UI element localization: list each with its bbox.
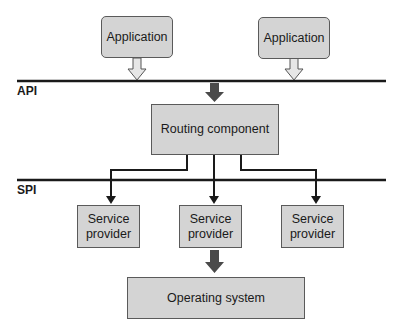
service-provider-line1: Service [88,212,130,227]
operating-system-box: Operating system [127,277,305,319]
hollow-arrow-down-icon [285,58,303,80]
service-provider-line1: Service [190,212,232,227]
block-arrow-down-icon [205,83,224,102]
service-provider-box: Service provider [281,205,344,248]
application-label: Application [106,30,167,45]
service-provider-box: Service provider [77,205,140,248]
service-provider-line2: provider [290,227,335,242]
service-provider-line1: Service [292,212,334,227]
application-box: Application [258,17,330,59]
routing-component-box: Routing component [151,104,279,155]
arrowhead-icons [106,196,321,204]
application-label: Application [263,31,324,46]
block-arrow-down-icon [205,250,224,273]
service-provider-line2: provider [188,227,233,242]
application-box: Application [101,16,173,58]
service-provider-box: Service provider [179,205,242,248]
spi-label: SPI [17,183,36,197]
hollow-arrow-down-icon [128,58,146,80]
api-label: API [17,84,37,98]
service-provider-line2: provider [86,227,131,242]
operating-system-label: Operating system [167,291,265,306]
routing-connectors [111,155,316,198]
routing-component-label: Routing component [161,122,269,137]
